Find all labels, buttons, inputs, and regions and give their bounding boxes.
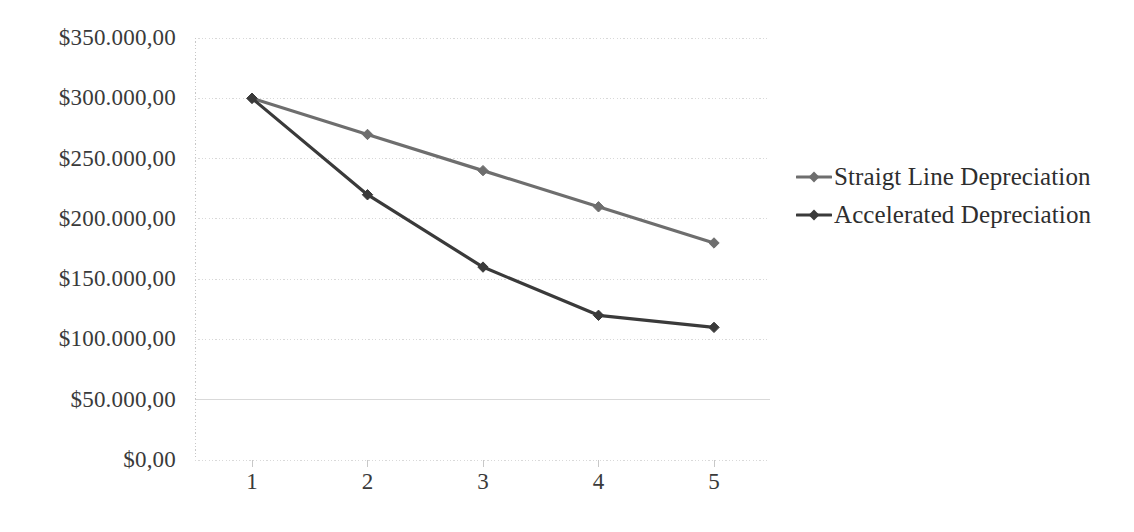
- legend-item-label: Accelerated Depreciation: [834, 201, 1091, 229]
- x-axis-tick-label: 2: [362, 469, 374, 495]
- x-axis-tick-label: 5: [708, 469, 720, 495]
- chart-page: $350.000,00$300.000,00$250.000,00$200.00…: [0, 0, 1134, 532]
- chart-legend: Straigt Line DepreciationAccelerated Dep…: [796, 158, 1126, 234]
- x-axis-tick-label: 3: [477, 469, 489, 495]
- legend-marker-icon: [796, 169, 832, 185]
- legend-item[interactable]: Straigt Line Depreciation: [796, 158, 1126, 196]
- x-axis-tick-label: 4: [593, 469, 605, 495]
- legend-marker-icon: [796, 207, 832, 223]
- legend-item[interactable]: Accelerated Depreciation: [796, 196, 1126, 234]
- x-axis-label-group: 12345: [0, 0, 1134, 532]
- x-axis-tick-label: 1: [246, 469, 258, 495]
- legend-item-label: Straigt Line Depreciation: [834, 163, 1091, 191]
